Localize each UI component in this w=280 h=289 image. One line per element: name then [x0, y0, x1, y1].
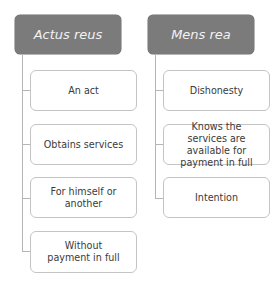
connector-tick	[22, 198, 30, 199]
actus-reus-item-obtains-services: Obtains services	[30, 124, 137, 165]
connector-tick	[155, 144, 163, 145]
connector-tick	[22, 144, 30, 145]
actus-reus-title: Actus reus	[34, 27, 103, 42]
mens-rea-connector	[155, 54, 156, 198]
item-label: Intention	[195, 192, 238, 204]
mens-rea-item-knows-services: Knows the services are available for pay…	[163, 124, 270, 165]
item-label: Dishonesty	[190, 85, 243, 97]
item-label: For himself or another	[49, 186, 118, 210]
connector-tick	[155, 90, 163, 91]
actus-reus-item-for-himself: For himself or another	[30, 177, 137, 218]
connector-tick	[22, 90, 30, 91]
actus-reus-item-without-payment: Without payment in full	[30, 231, 137, 273]
mens-rea-item-intention: Intention	[163, 177, 270, 218]
item-label: Obtains services	[44, 139, 123, 151]
connector-tick	[155, 198, 163, 199]
actus-reus-item-an-act: An act	[30, 70, 137, 111]
actus-reus-header: Actus reus	[15, 15, 121, 54]
connector-tick	[22, 251, 30, 252]
mens-rea-title: Mens rea	[171, 27, 231, 42]
actus-reus-connector	[22, 54, 23, 252]
mens-rea-item-dishonesty: Dishonesty	[163, 70, 270, 111]
mens-rea-header: Mens rea	[148, 15, 254, 54]
item-label: An act	[68, 85, 99, 97]
item-label: Without payment in full	[43, 240, 124, 264]
item-label: Knows the services are available for pay…	[172, 121, 261, 169]
